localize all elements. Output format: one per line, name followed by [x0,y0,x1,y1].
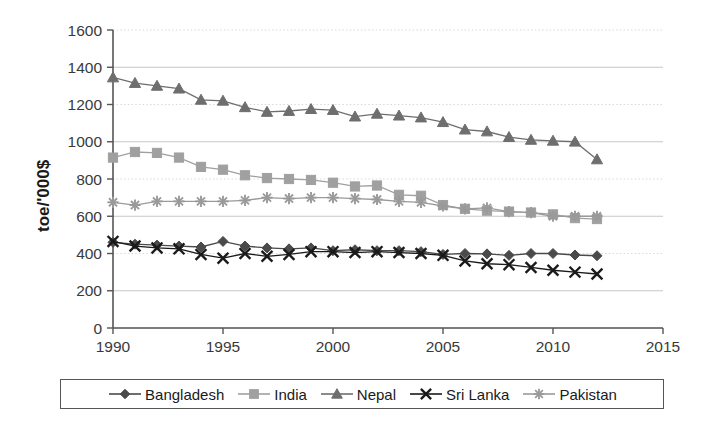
data-point [305,104,316,114]
data-point [173,196,184,207]
data-point [415,197,426,208]
data-point [240,171,249,180]
x-tick-label: 2005 [426,338,460,355]
data-point [130,147,139,156]
data-point [239,195,250,206]
data-point [570,250,580,260]
data-point [393,196,404,207]
data-point [481,202,492,213]
y-tick-label: 800 [76,171,102,188]
data-point [525,207,536,218]
legend-label: Bangladesh [145,386,224,403]
data-point [349,193,360,204]
data-point [569,211,580,222]
series-nepal [107,72,602,164]
y-axis-label: toe/'000$ [34,92,54,232]
data-point [250,390,259,399]
data-point [174,153,183,162]
x-tick-label: 1990 [96,338,131,355]
data-point [372,181,381,190]
data-point [547,211,558,222]
data-point [107,197,118,208]
data-point [195,94,206,104]
legend-label: India [274,386,307,403]
data-point [591,211,602,222]
x-tick-label: 2010 [536,338,571,355]
data-point [591,154,602,164]
legend-item-bangladesh[interactable]: Bangladesh [107,385,224,403]
data-point [107,72,118,82]
y-tick-label: 200 [76,282,102,299]
legend-item-india[interactable]: India [236,385,307,403]
data-point [305,192,316,203]
x-axis [113,328,663,334]
data-series-layer [107,72,602,279]
legend-label: Nepal [357,386,396,403]
data-point [196,162,205,171]
line-chart: 02004006008001000120014001600 1990199520… [0,0,714,370]
data-point [262,173,271,182]
x-marker-icon [408,385,444,403]
legend-label: Pakistan [559,386,617,403]
chart-legend: BangladeshIndiaNepalSri LankaPakistan [60,379,664,409]
data-point [328,178,337,187]
legend-item-nepal[interactable]: Nepal [319,385,396,403]
legend-item-sri-lanka[interactable]: Sri Lanka [408,385,509,403]
data-point [283,193,294,204]
y-tick-label: 1200 [68,96,103,113]
series-bangladesh [108,236,602,260]
data-point [195,196,206,207]
data-point [151,196,162,207]
data-point [592,251,602,261]
diamond-marker-icon [107,385,143,403]
data-point [459,124,470,134]
triangle-marker-icon [319,385,355,403]
data-point [504,250,514,260]
y-tick-label: 0 [93,320,102,337]
data-point [371,108,382,118]
data-point [534,389,545,400]
data-point [437,200,448,211]
data-point [459,203,470,214]
y-tick-label: 600 [76,208,102,225]
y-tick-label: 1600 [68,22,103,39]
x-tick-label: 2015 [646,338,680,355]
data-point [218,236,228,246]
data-point [129,199,140,210]
y-tick-label: 1400 [68,59,103,76]
x-tick-label: 1995 [206,338,240,355]
data-point [548,249,558,259]
data-point [526,249,536,259]
star-marker-icon [521,385,557,403]
y-tick-label: 400 [76,245,102,262]
data-point [120,389,130,399]
plot-area: 02004006008001000120014001600 1990199520… [0,0,714,370]
chart-page: 02004006008001000120014001600 1990199520… [0,0,714,423]
y-tick-label: 1000 [68,133,103,150]
data-point [108,153,117,162]
data-point [284,174,293,183]
y-tick-labels: 02004006008001000120014001600 [68,22,103,337]
data-point [152,148,161,157]
data-point [217,196,228,207]
gridlines [113,30,663,328]
square-marker-icon [236,385,272,403]
data-point [503,206,514,217]
data-point [327,192,338,203]
data-point [218,165,227,174]
x-tick-labels: 199019952000200520102015 [96,338,680,355]
legend-label: Sri Lanka [446,386,509,403]
data-point [371,194,382,205]
data-point [261,192,272,203]
data-point [482,249,492,259]
series-sri-lanka [108,236,603,279]
x-tick-label: 2000 [316,338,351,355]
data-point [350,182,359,191]
data-point [306,175,315,184]
legend-item-pakistan[interactable]: Pakistan [521,385,617,403]
